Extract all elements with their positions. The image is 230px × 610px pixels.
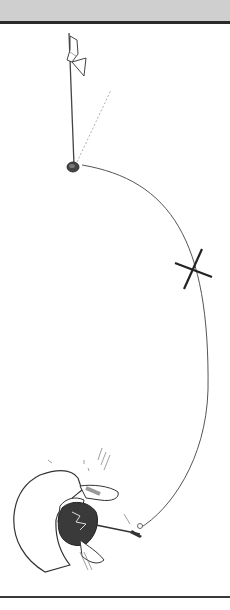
page-margin (0, 598, 230, 610)
panel-illustration (0, 0, 230, 610)
flag-icon (67, 33, 86, 165)
hole-highlight (69, 164, 75, 168)
golfer-figure (14, 448, 143, 572)
ball-trajectory (82, 165, 208, 528)
landing-mark-icon (175, 249, 212, 289)
flag-shadow (77, 90, 111, 162)
